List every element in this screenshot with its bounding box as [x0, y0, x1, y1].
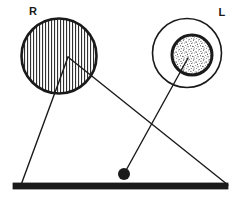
right-circle-label: L [219, 6, 226, 18]
point-mass-dot [118, 168, 130, 180]
baseline-bar [13, 183, 228, 189]
diagram-svg: R L [0, 0, 246, 202]
left-circle-label: R [29, 5, 37, 17]
right-circle-group [153, 19, 222, 88]
figure-canvas: R L [0, 0, 246, 202]
ray-dot-to-right-inner-circle [124, 58, 188, 174]
